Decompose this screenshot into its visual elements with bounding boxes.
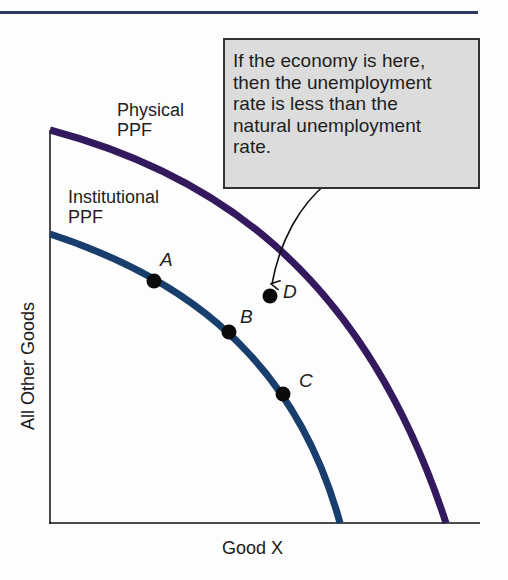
- callout-line: rate.: [233, 136, 478, 158]
- point-d-label: D: [283, 281, 297, 303]
- institutional-ppf-label: Institutional PPF: [68, 187, 159, 227]
- institutional-ppf-label-line1: Institutional: [68, 187, 159, 207]
- physical-ppf-label-line2: PPF: [117, 120, 184, 140]
- callout-line: then the unemployment: [233, 72, 478, 94]
- point-b-marker: [222, 325, 237, 340]
- point-c-label: C: [299, 370, 313, 392]
- point-a-marker: [147, 274, 162, 289]
- callout-line: natural unemployment: [233, 115, 478, 137]
- x-axis-label: Good X: [222, 538, 283, 559]
- y-axis-label: All Other Goods: [18, 302, 39, 430]
- point-c-marker: [276, 387, 291, 402]
- point-a-label: A: [160, 249, 173, 271]
- physical-ppf-label: Physical PPF: [117, 100, 184, 140]
- physical-ppf-label-line1: Physical: [117, 100, 184, 120]
- institutional-ppf-label-line2: PPF: [68, 207, 159, 227]
- point-b-label: B: [240, 306, 253, 328]
- institutional-ppf-curve: [50, 234, 340, 523]
- callout-line: If the economy is here,: [233, 50, 478, 72]
- callout-line: rate is less than the: [233, 93, 478, 115]
- callout-box: If the economy is here, then the unemplo…: [223, 38, 480, 189]
- point-d-marker: [263, 289, 278, 304]
